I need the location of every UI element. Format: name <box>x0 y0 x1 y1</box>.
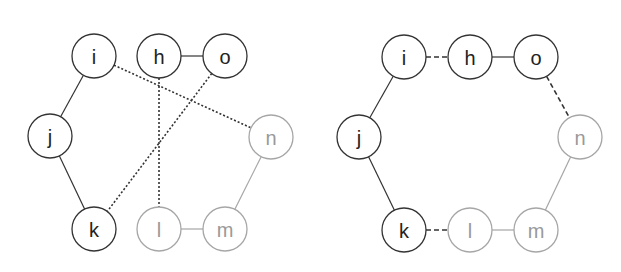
edge-j-k <box>59 156 84 209</box>
node-k: k <box>72 207 116 251</box>
edge-m-n <box>545 157 570 210</box>
edge-i-j <box>61 75 84 116</box>
node-h: h <box>137 34 181 78</box>
node-label: h <box>464 47 475 69</box>
graph-diagram: ihojnklm ihojnklm <box>0 0 621 272</box>
node-label: j <box>47 126 52 148</box>
edge-o-n <box>547 76 570 117</box>
node-label: n <box>265 127 276 149</box>
node-i: i <box>72 34 116 78</box>
node-m: m <box>203 207 247 251</box>
node-label: j <box>356 127 361 149</box>
node-n: n <box>558 115 602 159</box>
node-label: i <box>402 47 406 69</box>
node-label: o <box>219 46 230 68</box>
right-graph-panel: ihojnklm <box>337 35 602 252</box>
edge-m-n <box>235 157 261 210</box>
node-j: j <box>337 115 381 159</box>
node-o: o <box>514 35 558 79</box>
node-label: h <box>153 46 164 68</box>
node-k: k <box>382 208 426 252</box>
node-l: l <box>448 208 492 252</box>
node-label: k <box>89 219 100 241</box>
node-o: o <box>203 34 247 78</box>
edge-i-j <box>370 76 393 118</box>
node-h: h <box>448 35 492 79</box>
node-j: j <box>28 114 72 158</box>
left-graph-panel: ihojnklm <box>28 34 293 251</box>
node-label: l <box>468 220 472 242</box>
node-label: l <box>157 219 161 241</box>
node-label: i <box>92 46 96 68</box>
node-label: k <box>399 220 410 242</box>
node-label: m <box>528 220 545 242</box>
node-label: m <box>217 219 234 241</box>
node-label: o <box>530 47 541 69</box>
node-l: l <box>137 207 181 251</box>
edge-j-k <box>369 157 395 210</box>
node-i: i <box>382 35 426 79</box>
node-n: n <box>249 115 293 159</box>
node-m: m <box>514 208 558 252</box>
node-label: n <box>574 127 585 149</box>
